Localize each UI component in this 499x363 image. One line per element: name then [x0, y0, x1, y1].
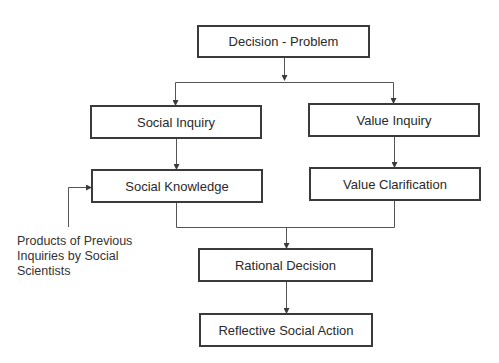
- node-rational-decision: Rational Decision: [198, 248, 373, 282]
- side-note-line: Scientists: [17, 264, 157, 279]
- node-label: Social Inquiry: [137, 115, 215, 130]
- node-social-inquiry: Social Inquiry: [90, 105, 262, 139]
- node-value-clarification: Value Clarification: [309, 167, 481, 201]
- node-social-knowledge: Social Knowledge: [91, 169, 263, 203]
- node-reflective-social-action: Reflective Social Action: [199, 313, 373, 347]
- flow-diagram: Decision - Problem Social Inquiry Value …: [0, 0, 499, 363]
- node-label: Value Clarification: [343, 177, 447, 192]
- node-label: Social Knowledge: [125, 179, 228, 194]
- side-note-products-of-previous-inquiries: Products of Previous Inquiries by Social…: [17, 234, 157, 279]
- node-decision-problem: Decision - Problem: [197, 25, 370, 58]
- merge-line: [177, 200, 395, 228]
- side-note-line: Inquiries by Social: [17, 249, 157, 264]
- side-note-line: Products of Previous: [17, 234, 157, 249]
- node-label: Value Inquiry: [357, 113, 432, 128]
- node-value-inquiry: Value Inquiry: [308, 103, 480, 137]
- node-label: Reflective Social Action: [218, 323, 353, 338]
- node-label: Rational Decision: [235, 258, 336, 273]
- arrow-products-to-knowledge: [69, 188, 92, 228]
- node-label: Decision - Problem: [229, 34, 339, 49]
